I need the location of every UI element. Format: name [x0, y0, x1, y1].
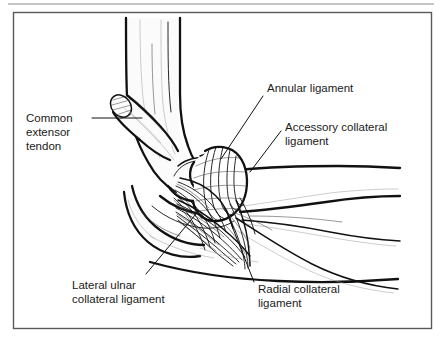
label-common-extensor-tendon-line1: Common [26, 112, 73, 124]
label-accessory-collateral-ligament-line2: ligament [285, 135, 329, 147]
label-radial-collateral-ligament-line2: ligament [258, 297, 302, 309]
label-common-extensor-tendon-line3: tendon [26, 140, 61, 152]
label-lateral-ulnar-collateral-ligament-line1: Lateral ulnar [72, 279, 136, 291]
label-annular-ligament-line1: Annular ligament [267, 82, 354, 94]
label-common-extensor-tendon-line2: extensor [26, 126, 70, 138]
label-annular-ligament: Annular ligament [267, 82, 354, 94]
label-radial-collateral-ligament-line1: Radial collateral [258, 283, 340, 295]
label-lateral-ulnar-collateral-ligament-line2: collateral ligament [72, 293, 165, 305]
label-accessory-collateral-ligament-line1: Accessory collateral [285, 121, 387, 133]
anatomical-figure: Common extensor tendon Annular ligament … [0, 0, 442, 343]
